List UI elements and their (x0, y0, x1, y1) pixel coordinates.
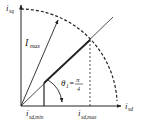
imax-label: I max (24, 37, 40, 49)
isd-min-label: i sd,min (26, 108, 44, 120)
isd-max-label: i sd,max (78, 108, 97, 120)
svg-text:sd,max: sd,max (81, 114, 97, 120)
imax-vector (21, 20, 58, 106)
svg-text:sd,min: sd,min (29, 114, 44, 120)
y-axis-label: i sq (6, 3, 14, 14)
operating-segment (44, 40, 90, 83)
svg-text:sd: sd (128, 106, 133, 112)
theta-label: θ 1 = π 4 (61, 76, 83, 92)
svg-text:π: π (76, 76, 80, 84)
theta-angle-arc (48, 80, 62, 102)
svg-text:sq: sq (9, 8, 14, 14)
svg-text:=: = (69, 79, 74, 88)
svg-text:I: I (24, 37, 29, 48)
svg-text:4: 4 (77, 86, 80, 92)
current-limit-diagram: i sq i sd I max θ 1 = π 4 i sd,min i sd,… (0, 0, 147, 123)
svg-text:max: max (30, 43, 40, 49)
x-axis-label: i sd (125, 101, 133, 112)
